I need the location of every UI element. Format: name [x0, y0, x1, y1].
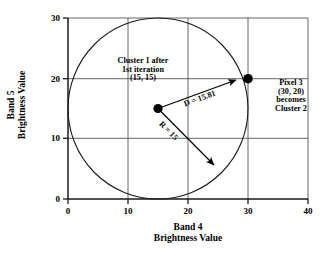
pixel-3-line4: Cluster 2	[258, 105, 324, 114]
x-axis-title: Band 4 Brightness Value	[118, 222, 258, 244]
y-tick-label-10: 10	[40, 133, 60, 143]
pixel-3-annotation: Pixel 3 (30, 20) becomes Cluster 2	[258, 79, 324, 113]
x-axis-title-line1: Band 4	[118, 222, 258, 233]
x-tick-label-30: 30	[238, 206, 258, 216]
x-tick-label-40: 40	[298, 206, 318, 216]
y-tick-label-0: 0	[40, 194, 60, 204]
cluster-1-annotation: Cluster 1 after 1st iteration (15, 15)	[91, 57, 195, 83]
x-tick-label-10: 10	[118, 206, 138, 216]
y-axis-title-line1: Band 5	[6, 35, 17, 175]
x-tick-label-0: 0	[58, 206, 78, 216]
cluster-1-line3: (15, 15)	[91, 74, 195, 83]
y-tick-label-20: 20	[40, 74, 60, 84]
cluster-distance-diagram: 0 10 20 30 40 0 10 20 30 Band 4 Brightne…	[0, 0, 331, 259]
x-axis-title-line2: Brightness Value	[118, 233, 258, 244]
x-tick-label-20: 20	[178, 206, 198, 216]
pixel-3-marker	[243, 74, 253, 84]
y-axis-title: Band 5 Brightness Value	[6, 35, 28, 175]
y-tick-label-30: 30	[40, 13, 60, 23]
y-axis-title-line2: Brightness Value	[17, 35, 28, 175]
